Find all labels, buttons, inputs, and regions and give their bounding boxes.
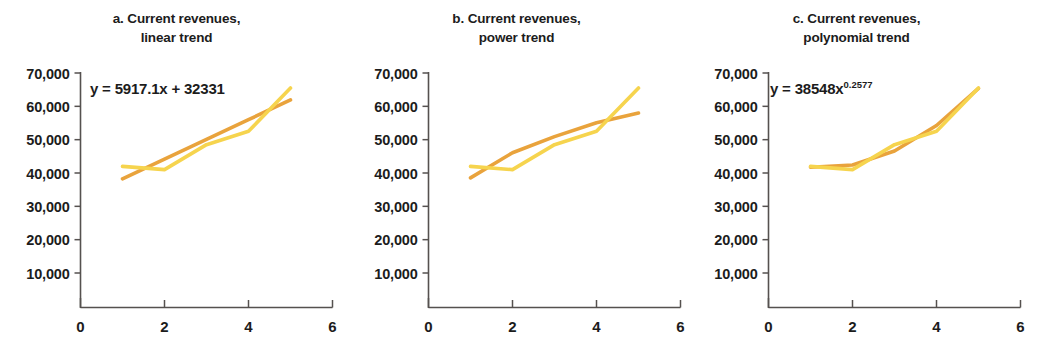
y-tick-label: 40,000 (26, 166, 69, 182)
x-tick-label: 4 (932, 318, 941, 335)
y-tick-labels: 70,00060,00050,00040,00030,00020,00010,0… (714, 66, 757, 282)
panel-a-series (123, 88, 291, 179)
panel-b-y-axis: 70,00060,00050,00040,00030,00020,00010,0… (374, 66, 428, 309)
y-tick-label: 20,000 (374, 232, 417, 248)
x-tick-label: 4 (592, 318, 601, 335)
panel-b-series (471, 88, 639, 178)
x-tick-label: 6 (1016, 318, 1024, 335)
figure-panels-container: a. Current revenues, linear trend 70,000… (0, 0, 1059, 342)
y-tick-label: 30,000 (374, 199, 417, 215)
y-tick-marks (75, 73, 81, 273)
panel-c-svg: 70,00060,00050,00040,00030,00020,00010,0… (680, 0, 1059, 342)
panel-c-x-axis: 0246 (764, 298, 1024, 335)
x-tick-marks (429, 298, 681, 308)
x-tick-label: 2 (508, 318, 516, 335)
chart-panel-a: a. Current revenues, linear trend 70,000… (0, 0, 353, 342)
y-tick-label: 40,000 (714, 166, 757, 182)
panel-a-y-axis: 70,00060,00050,00040,00030,00020,00010,0… (26, 66, 80, 309)
y-tick-label: 10,000 (714, 266, 757, 282)
panel-a-x-axis: 0246 (76, 298, 336, 335)
y-tick-label: 50,000 (714, 132, 757, 148)
y-tick-marks (423, 73, 429, 273)
panel-b-x-axis: 0246 (424, 298, 684, 335)
panel-b-svg: 70,00060,00050,00040,00030,00020,00010,0… (340, 0, 693, 342)
x-tick-label: 2 (848, 318, 856, 335)
y-tick-label: 20,000 (26, 232, 69, 248)
y-tick-label: 70,000 (714, 66, 757, 82)
panel-c-plot-area: 70,00060,00050,00040,00030,00020,00010,0… (680, 0, 1033, 342)
chart-panel-b: b. Current revenues, power trend 70,0006… (340, 0, 693, 342)
y-tick-label: 70,000 (26, 66, 69, 82)
panel-a-plot-area: 70,00060,00050,00040,00030,00020,00010,0… (0, 0, 353, 342)
y-tick-label: 70,000 (374, 66, 417, 82)
y-tick-label: 60,000 (26, 99, 69, 115)
x-tick-label: 2 (160, 318, 168, 335)
x-tick-label: 0 (424, 318, 432, 335)
y-tick-label: 20,000 (714, 232, 757, 248)
y-tick-label: 30,000 (714, 199, 757, 215)
x-tick-labels: 0246 (764, 318, 1024, 335)
y-tick-labels: 70,00060,00050,00040,00030,00020,00010,0… (374, 66, 417, 282)
panel-c-data-line (811, 88, 979, 170)
x-tick-label: 0 (76, 318, 84, 335)
x-tick-marks (769, 298, 1021, 308)
y-tick-label: 10,000 (26, 266, 69, 282)
y-tick-labels: 70,00060,00050,00040,00030,00020,00010,0… (26, 66, 69, 282)
panel-c-y-axis: 70,00060,00050,00040,00030,00020,00010,0… (714, 66, 768, 309)
y-tick-label: 10,000 (374, 266, 417, 282)
x-tick-marks (81, 298, 333, 308)
x-tick-labels: 0246 (424, 318, 684, 335)
panel-a-svg: 70,00060,00050,00040,00030,00020,00010,0… (0, 0, 353, 342)
x-tick-label: 0 (764, 318, 772, 335)
y-tick-label: 40,000 (374, 166, 417, 182)
x-tick-labels: 0246 (76, 318, 336, 335)
x-tick-label: 6 (328, 318, 336, 335)
y-tick-label: 30,000 (26, 199, 69, 215)
panel-a-equation-label: y = 5917.1x + 32331 (90, 79, 225, 99)
y-tick-label: 50,000 (26, 132, 69, 148)
panel-a-data-line (123, 88, 291, 170)
x-tick-label: 4 (244, 318, 253, 335)
y-tick-label: 50,000 (374, 132, 417, 148)
y-tick-label: 60,000 (714, 99, 757, 115)
chart-panel-c: c. Current revenues, polynomial trend 70… (680, 0, 1033, 342)
panel-c-series (811, 88, 979, 170)
panel-b-data-line (471, 88, 639, 170)
y-tick-label: 60,000 (374, 99, 417, 115)
panel-b-plot-area: 70,00060,00050,00040,00030,00020,00010,0… (340, 0, 693, 342)
y-tick-marks (763, 73, 769, 273)
panel-c-trend-line (811, 88, 979, 167)
